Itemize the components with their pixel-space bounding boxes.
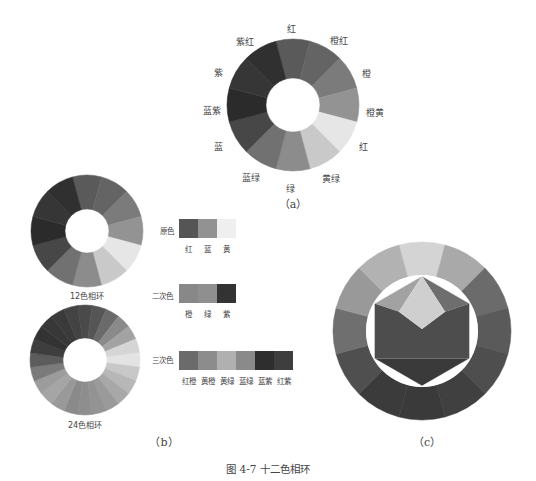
primary-swatch-labels: 红蓝黄 bbox=[179, 243, 236, 254]
color-swatch bbox=[198, 219, 217, 238]
primary-title: 原色 bbox=[160, 225, 174, 236]
wheel-a-label: 橙黄 bbox=[366, 106, 384, 119]
caption-c: （c） bbox=[413, 433, 441, 449]
swatch-label: 绿 bbox=[198, 308, 217, 319]
diagram-canvas bbox=[0, 0, 536, 481]
color-swatch bbox=[255, 351, 274, 370]
wheel-a-label: 红 bbox=[359, 140, 368, 153]
wheel-a-label: 紫红 bbox=[236, 35, 254, 48]
color-swatch bbox=[198, 284, 217, 303]
color-swatch bbox=[217, 351, 236, 370]
swatch-label: 橙 bbox=[179, 308, 198, 319]
wheel-a-label: 蓝紫 bbox=[203, 104, 221, 117]
color-swatch bbox=[179, 351, 198, 370]
figure-caption: 图 4-7 十二色相环 bbox=[226, 461, 310, 476]
color-swatch bbox=[179, 219, 198, 238]
caption-b: （b） bbox=[149, 433, 178, 449]
color-swatch bbox=[217, 219, 236, 238]
color-wheel-12 bbox=[31, 175, 143, 287]
wheel-a-label: 红 bbox=[287, 22, 296, 35]
wheel-a-label: 绿 bbox=[286, 182, 295, 195]
swatch-label: 蓝紫 bbox=[255, 375, 274, 386]
color-swatch bbox=[217, 284, 236, 303]
wheel-a-label: 橙 bbox=[362, 67, 371, 80]
color-swatch bbox=[236, 351, 255, 370]
wheel-a-label: 紫 bbox=[214, 66, 223, 79]
color-swatch bbox=[274, 351, 293, 370]
secondary-swatch-labels: 橙绿紫 bbox=[179, 308, 236, 319]
color-wheel-a bbox=[227, 39, 359, 171]
swatch-label: 红紫 bbox=[274, 375, 293, 386]
swatch-label: 紫 bbox=[217, 308, 236, 319]
wheel-a-label: 橙红 bbox=[330, 34, 348, 47]
wheel-24-label: 24色相环 bbox=[68, 419, 102, 430]
secondary-swatches bbox=[179, 284, 236, 303]
tertiary-swatch-labels: 红橙黄橙黄绿蓝绿蓝紫红紫 bbox=[179, 375, 293, 386]
swatch-label: 黄 bbox=[217, 243, 236, 254]
wheel-12-label: 12色相环 bbox=[70, 290, 104, 301]
swatch-label: 蓝 bbox=[198, 243, 217, 254]
wheel-a-label: 蓝 bbox=[214, 140, 223, 153]
color-swatch bbox=[198, 351, 217, 370]
color-swatch bbox=[179, 284, 198, 303]
wheel-a-label: 黄绿 bbox=[322, 172, 340, 185]
secondary-title: 二次色 bbox=[152, 290, 173, 301]
caption-a: （a） bbox=[279, 195, 308, 211]
swatch-label: 蓝绿 bbox=[236, 375, 255, 386]
color-wheel-24 bbox=[30, 305, 140, 415]
tertiary-swatches bbox=[179, 351, 293, 370]
swatch-label: 红 bbox=[179, 243, 198, 254]
primary-swatches bbox=[179, 219, 236, 238]
swatch-label: 黄橙 bbox=[198, 375, 217, 386]
tertiary-title: 三次色 bbox=[152, 354, 173, 365]
swatch-label: 黄绿 bbox=[217, 375, 236, 386]
wheel-a-label: 蓝绿 bbox=[242, 171, 260, 184]
swatch-label: 红橙 bbox=[179, 375, 198, 386]
